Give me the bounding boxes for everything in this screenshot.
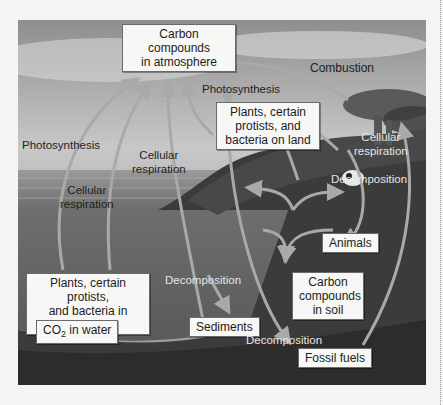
node-soil: Carbon compounds in soil bbox=[292, 272, 364, 320]
node-co2-water: CO2 in water bbox=[36, 320, 118, 344]
page-margin-dotted-line bbox=[440, 0, 441, 405]
label-combustion: Combustion bbox=[310, 61, 374, 75]
node-fossil-fuels: Fossil fuels bbox=[298, 348, 372, 368]
label-decomposition-water: Decomposition bbox=[165, 273, 241, 287]
label-cellular-respiration-right: Cellular respiration bbox=[354, 130, 408, 158]
co2-suffix: in water bbox=[66, 323, 111, 337]
label-decomposition-land: Decomposition bbox=[331, 172, 407, 186]
label-photosynthesis-top: Photosynthesis bbox=[202, 82, 280, 96]
node-atmosphere: Carbon compounds in atmosphere bbox=[122, 24, 236, 72]
node-plants-land: Plants, certain protists, and bacteria o… bbox=[216, 102, 320, 150]
label-cellular-respiration-left: Cellular respiration bbox=[60, 183, 114, 211]
node-animals: Animals bbox=[322, 233, 379, 253]
label-cellular-respiration-mid: Cellular respiration bbox=[132, 148, 186, 176]
label-decomposition-soil: Decomposition bbox=[246, 333, 322, 347]
carbon-cycle-diagram: Carbon compounds in atmosphere Plants, c… bbox=[18, 20, 426, 385]
label-photosynthesis-left: Photosynthesis bbox=[22, 138, 100, 152]
co2-prefix: CO bbox=[43, 323, 61, 337]
